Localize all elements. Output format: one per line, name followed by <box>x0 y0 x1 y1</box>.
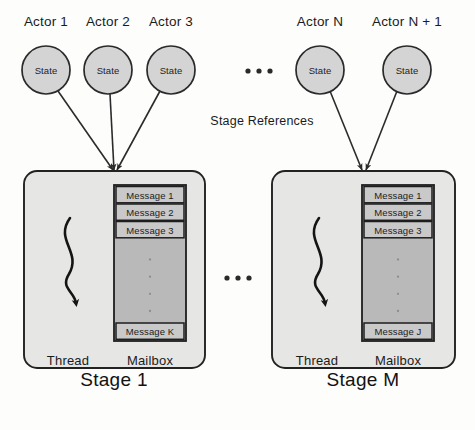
stage-group-ellipsis-dot <box>235 275 240 280</box>
thread-label: Thread <box>296 353 338 368</box>
mailbox-vertical-ellipsis-dot <box>149 310 151 312</box>
mailbox-message-label: Message 3 <box>374 224 421 235</box>
stage-reference-arrow-group <box>58 91 397 170</box>
stage-reference-arrow <box>117 91 160 170</box>
actor-state-label: State <box>97 65 120 76</box>
actor-stage-diagram: Actor 1StateActor 2StateActor 3StateActo… <box>0 0 475 430</box>
stage-reference-arrow <box>110 94 114 170</box>
mailbox-message-label: Message 1 <box>126 189 173 200</box>
actor-title-label: Actor 2 <box>86 14 130 29</box>
mailbox-vertical-ellipsis-dot <box>397 293 399 295</box>
stage-reference-arrow <box>330 91 362 170</box>
mailbox-message-label: Message 1 <box>374 189 421 200</box>
stage-group-ellipsis-dot <box>246 275 251 280</box>
actor-title-label: Actor N + 1 <box>372 14 442 29</box>
actor-state-label: State <box>160 65 183 76</box>
stage-caption-label: Stage M <box>327 369 400 391</box>
mailbox-vertical-ellipsis-dot <box>397 258 399 260</box>
mailbox-vertical-ellipsis-dot <box>397 310 399 312</box>
mailbox-vertical-ellipsis-dot <box>149 293 151 295</box>
mailbox-vertical-ellipsis-dot <box>149 276 151 278</box>
mailbox-message-label: Message 2 <box>374 207 421 218</box>
actor-state-label: State <box>396 65 419 76</box>
actor-group-ellipsis-dot <box>245 68 250 73</box>
actor-state-label: State <box>309 65 332 76</box>
stage-reference-arrow <box>366 91 397 170</box>
mailbox-message-label: Message 2 <box>126 207 173 218</box>
mailbox-message-label: Message 3 <box>126 224 173 235</box>
actor-state-label: State <box>35 65 58 76</box>
actor-group-ellipsis-dot <box>267 68 272 73</box>
stage-reference-arrow <box>58 91 113 170</box>
mailbox-vertical-ellipsis-dot <box>149 258 151 260</box>
mailbox-last-message-label: Message K <box>126 326 174 337</box>
mailbox-label: Mailbox <box>375 353 421 368</box>
actor-title-label: Actor 3 <box>149 14 193 29</box>
mailbox-last-message-label: Message J <box>375 326 422 337</box>
actor-group-ellipsis-dot <box>256 68 261 73</box>
thread-label: Thread <box>47 353 89 368</box>
actor-title-label: Actor N <box>297 14 343 29</box>
mailbox-label: Mailbox <box>127 353 173 368</box>
actor-circle-group <box>22 46 431 94</box>
stage-group-ellipsis-dot <box>224 275 229 280</box>
stage-references-label: Stage References <box>210 114 313 128</box>
mailbox-vertical-ellipsis-dot <box>397 276 399 278</box>
actor-title-label: Actor 1 <box>24 14 68 29</box>
stage-caption-label: Stage 1 <box>80 369 148 391</box>
